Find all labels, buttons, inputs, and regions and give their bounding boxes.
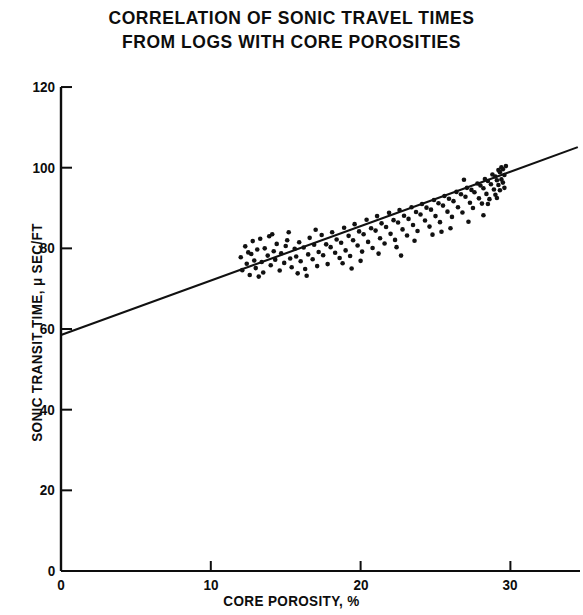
scatter-point [450,215,455,220]
scatter-point [415,229,420,234]
axes-layer [61,87,580,571]
scatter-point [406,217,411,222]
scatter-point [330,230,335,235]
scatter-point [262,246,267,251]
scatter-point [459,192,464,197]
scatter-point [355,243,360,248]
scatter-point [321,253,326,258]
scatter-point [294,254,299,259]
scatter-point [462,178,467,183]
scatter-point [484,192,489,197]
scatter-point [351,238,356,243]
scatter-point [285,238,290,243]
scatter-point [481,213,486,218]
scatter-point [460,210,465,215]
scatter-point [373,228,378,233]
scatter-point [489,182,494,187]
scatter-point [340,261,345,266]
scatter-point [277,268,282,273]
scatter-point [472,190,477,195]
scatter-point [438,220,443,225]
scatter-point [487,197,492,202]
scatter-point [283,244,288,249]
scatter-point [247,273,252,278]
scatter-point [328,245,333,250]
scatter-point [496,183,501,188]
scatter-point [268,263,273,268]
scatter-point [271,249,276,254]
scatter-point [424,205,429,210]
scatter-point [448,226,453,231]
scatter-point [265,253,270,258]
scatter-point [297,240,302,245]
scatter-point [249,252,254,257]
scatter-point [253,266,258,271]
scatter-point [319,233,324,238]
scatter-point [298,259,303,264]
scatter-point [384,225,389,230]
x-axis-tick-label: 30 [488,576,533,593]
scatter-point [477,196,482,201]
scatter-point [414,210,419,215]
scatter-point [337,256,342,261]
scatter-point [391,218,396,223]
scatter-point [433,214,438,219]
scatter-point [427,224,432,229]
scatter-point [379,221,384,226]
scatter-point [486,202,491,207]
scatter-point [451,199,456,204]
x-axis-tick-label: 10 [188,576,233,593]
scatter-point [418,212,423,217]
scatter-point [378,236,383,241]
regression-line [61,147,578,335]
scatter-point [400,227,405,232]
scatter-point [346,234,351,239]
scatter-point [502,186,507,191]
scatter-point [316,250,321,255]
scatter-point [270,232,275,237]
scatter-point [394,245,399,250]
scatter-point [258,236,263,241]
scatter-point [430,232,435,237]
x-axis-tick-label: 20 [338,576,383,593]
scatter-point [238,255,243,260]
scatter-point [282,261,287,266]
scatter-point [352,222,357,227]
scatter-point [441,203,446,208]
scatter-point [492,187,497,192]
scatter-point [256,274,261,279]
scatter-point [348,254,353,259]
scatter-point [382,241,387,246]
x-axis-title: CORE POROSITY, % [29,592,554,609]
scatter-point [504,164,509,169]
scatter-point [447,196,452,201]
scatter-point [498,188,503,193]
scatter-point [393,238,398,243]
scatter-point [495,196,500,201]
scatter-point [315,264,320,269]
scatter-point [429,207,434,212]
scatter-point [495,178,500,183]
scatter-point [405,233,410,238]
scatter-point [333,251,338,256]
y-axis-ticks [61,87,72,490]
scatter-point [343,248,348,253]
y-axis-title: SONIC TRANSIT TIME, μ SEC/FT [28,207,45,459]
scatter-point [304,273,309,278]
scatter-point [456,205,461,210]
scatter-point [357,229,362,234]
scatter-point [468,200,473,205]
scatter-point [295,271,300,276]
scatter-point [366,240,371,245]
scatter-point [436,201,441,206]
scatter-point [423,218,428,223]
scatter-point [324,242,329,247]
scatter-point [501,180,506,185]
scatter-point [370,246,375,251]
scatter-point [360,249,365,254]
scatter-point [252,258,257,263]
scatter-point [480,201,485,206]
x-axis-ticks [211,561,511,571]
scatter-point [334,237,339,242]
scatter-point [439,230,444,235]
